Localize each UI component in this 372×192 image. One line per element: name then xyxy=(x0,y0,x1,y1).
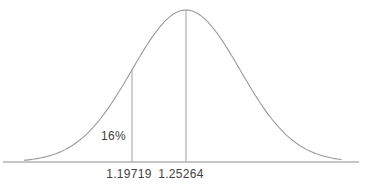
tail-area-label: 16% xyxy=(101,130,126,143)
x-tick-label-sd-below: 1.19719 xyxy=(106,168,151,181)
normal-curve-figure: 16% 1.19719 1.25264 xyxy=(0,0,372,192)
bell-curve-plot xyxy=(0,0,372,192)
x-tick-label-mean: 1.25264 xyxy=(158,168,203,181)
bell-curve xyxy=(24,10,342,160)
